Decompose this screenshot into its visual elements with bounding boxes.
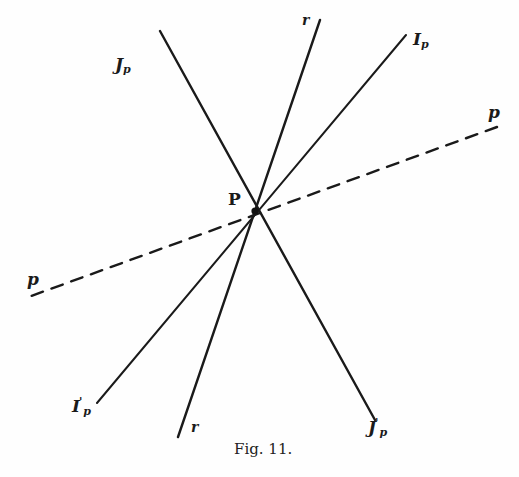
line-p-dashed bbox=[31, 127, 497, 296]
label-i-p-prime: I'p bbox=[72, 398, 91, 417]
label-r-bottom: r bbox=[191, 420, 198, 434]
label-i-p: Ip bbox=[413, 31, 429, 50]
line-i-p bbox=[97, 35, 406, 403]
label-point-p: P bbox=[228, 191, 241, 208]
line-j-p bbox=[160, 31, 375, 420]
label-j-p: Jp bbox=[115, 56, 131, 75]
figure-canvas: Jp r Ip p P p I'p r J'p Fig. 11. bbox=[0, 0, 519, 477]
label-r-top: r bbox=[302, 13, 309, 27]
figure-caption: Fig. 11. bbox=[234, 440, 292, 458]
label-j-p-prime: J'p bbox=[368, 419, 387, 438]
label-p-right: p bbox=[488, 104, 500, 121]
label-p-left: p bbox=[27, 271, 39, 288]
line-r bbox=[178, 20, 320, 437]
point-p-dot bbox=[251, 207, 258, 214]
